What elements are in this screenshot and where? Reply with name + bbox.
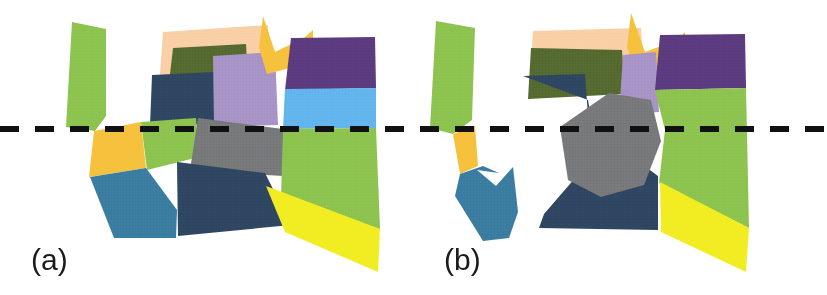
segment-amber-left-lower xyxy=(89,122,146,177)
segment-navy-upper-left xyxy=(150,72,218,126)
panel-label-a: (a) xyxy=(31,245,68,275)
panel-b: (b) xyxy=(413,0,827,295)
segment-amber-left-lower xyxy=(453,126,478,174)
segment-purple-top-right xyxy=(285,37,376,90)
figure-container: (a) (b) xyxy=(0,0,827,295)
segment-teal-left xyxy=(90,168,177,238)
segment-left-green-sliver xyxy=(430,21,475,134)
segment-green-left-lower xyxy=(141,118,199,170)
segment-left-green-sliver xyxy=(66,22,106,131)
segment-sky-blue-band xyxy=(283,88,376,129)
segment-teal-left-notched xyxy=(455,166,518,241)
panel-label-b: (b) xyxy=(444,245,481,275)
panel-a: (a) xyxy=(0,0,414,295)
segment-purple-top-right xyxy=(655,34,746,90)
